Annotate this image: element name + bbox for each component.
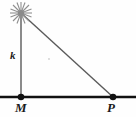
point-m-label: M [15, 101, 27, 114]
hypotenuse-line [21, 13, 113, 97]
star-burst-icon [10, 2, 32, 24]
point-p-label: P [107, 101, 115, 114]
height-segment-label: k [10, 50, 16, 61]
geometry-diagram: k M P [0, 0, 136, 117]
interior-mark [48, 58, 50, 60]
